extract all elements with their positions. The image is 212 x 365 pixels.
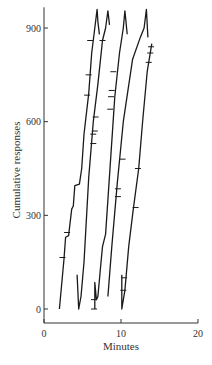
curves xyxy=(59,9,154,309)
y-tick-label: 600 xyxy=(26,116,41,127)
y-axis-title: Cumulative responses xyxy=(10,122,22,219)
y-tick-label: 0 xyxy=(36,304,41,315)
x-tick-label: 20 xyxy=(193,328,203,339)
axes: 030060090001020 xyxy=(26,7,203,339)
cumulative-record-line xyxy=(122,44,152,309)
x-tick-label: 0 xyxy=(42,328,47,339)
y-tick-label: 300 xyxy=(26,210,41,221)
cumulative-record-line xyxy=(59,9,99,309)
x-axis-title: Minutes xyxy=(103,340,139,352)
x-tick-label: 10 xyxy=(116,328,126,339)
y-tick-label: 900 xyxy=(26,23,41,34)
cumulative-record-chart: 030060090001020 Cumulative responses Min… xyxy=(0,0,212,365)
